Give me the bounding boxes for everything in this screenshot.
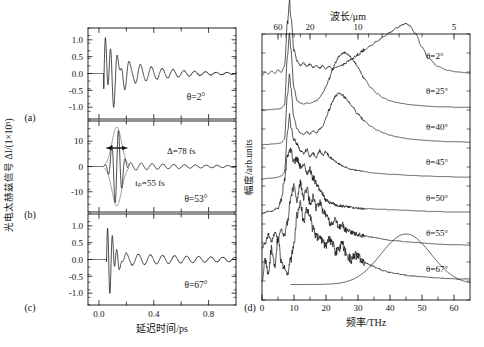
x-tick-label: 0	[260, 303, 265, 313]
panel-tag-d: (d)	[244, 302, 256, 314]
y-tick-label: -1.0	[69, 288, 84, 298]
top-axis-title: 波长/μm	[330, 10, 366, 22]
y-tick-label: 0.5	[72, 52, 84, 62]
x-tick-label: 0.0	[93, 309, 105, 319]
x-tick-label: 40	[386, 303, 396, 313]
x-tick-label: 10	[290, 303, 300, 313]
right-x-axis-title: 频率/THz	[346, 316, 387, 328]
y-tick-label: 0.5	[72, 238, 84, 248]
y-tick-label: -0.5	[69, 272, 84, 282]
angle-label-a: θ=2°	[187, 92, 206, 102]
x-tick-label: 20	[322, 303, 332, 313]
angle-label: θ=2°	[426, 51, 444, 61]
y-tick-label: -1.0	[69, 102, 84, 112]
spectrum-trace	[262, 0, 470, 75]
top-tick-label: 10	[354, 22, 364, 32]
y-tick-label: 1.0	[72, 35, 84, 45]
angle-label: θ=50°	[426, 193, 448, 203]
left-x-axis-title: 延迟时间/ps	[136, 322, 188, 334]
x-tick-label: 0.4	[148, 309, 160, 319]
angle-label-b: θ=53°	[184, 194, 207, 204]
x-tick-label: 30	[354, 303, 364, 313]
y-tick-label: -0.5	[69, 86, 84, 96]
top-tick-label: 60	[274, 22, 284, 32]
y-tick-label: 1.0	[72, 221, 84, 231]
y-tick-label: 0.0	[72, 69, 84, 79]
waveform-trace-c	[88, 228, 236, 293]
panel-tag-b: (b)	[24, 209, 36, 221]
x-tick-label: 60	[450, 303, 460, 313]
right-y-axis-title: 幅度/arb.units	[243, 139, 254, 195]
top-tick-label: 5	[452, 22, 457, 32]
top-tick-label: 20	[306, 22, 316, 32]
waveform-trace-a	[88, 38, 236, 108]
pulse-duration-label: tₚ=55 fs	[135, 178, 165, 188]
angle-label: θ=45°	[426, 157, 448, 167]
pulse-width-label: Δ=78 fs	[167, 146, 196, 156]
angle-label: θ=25°	[426, 86, 448, 96]
spectrum-trace-companion	[291, 234, 470, 285]
waveform-trace-b	[88, 131, 236, 203]
panel-tag-c: (c)	[24, 302, 35, 314]
y-tick-label: -10	[71, 187, 83, 197]
angle-label: θ=67°	[426, 264, 448, 274]
terahertz-figure: 1.00.50.0-0.5-1.0100-101.00.50.0-0.5-1.0…	[0, 0, 484, 347]
y-tick-label: 0.0	[72, 255, 84, 265]
y-tick-label: 10	[74, 136, 84, 146]
angle-label: θ=40°	[426, 122, 448, 132]
arrow-head-right	[122, 146, 127, 150]
angle-label-c: θ=67°	[184, 280, 207, 290]
x-tick-label: 0.8	[203, 309, 215, 319]
left-y-axis-title: 光电太赫兹信号 ΔI/(1×10⁵)	[3, 118, 15, 232]
x-tick-label: 50	[418, 303, 428, 313]
arrow-head-left	[107, 146, 112, 150]
angle-label: θ=55°	[426, 228, 448, 238]
panel-tag-a: (a)	[24, 112, 35, 124]
y-tick-label: 0	[79, 162, 84, 172]
